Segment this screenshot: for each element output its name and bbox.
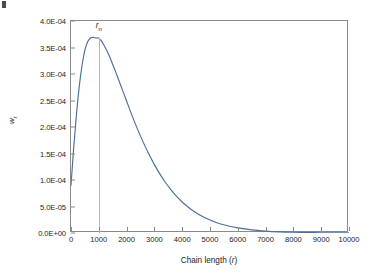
- x-axis-tick-label: 1000: [90, 235, 107, 244]
- x-axis-tick-label: 9000: [313, 235, 330, 244]
- plot-area: rn 0.0E+005.0E-051.0E-041.5E-042.0E-042.…: [70, 20, 348, 232]
- y-axis-tick-label: 0.0E+00: [38, 229, 66, 238]
- x-axis-tick-mark: [182, 227, 183, 231]
- y-axis-tick-mark: [71, 47, 75, 48]
- x-axis-tick-label: 2000: [118, 235, 135, 244]
- y-axis-tick-label: 3.5E-04: [40, 43, 66, 52]
- y-axis-tick-mark: [71, 127, 75, 128]
- x-axis-tick-mark: [210, 227, 211, 231]
- y-axis-label-var: w: [7, 118, 16, 124]
- y-axis-tick-label: 5.0E-05: [40, 202, 66, 211]
- x-axis-tick-mark: [266, 227, 267, 231]
- x-axis-title-text: Chain length (: [181, 256, 232, 265]
- y-axis-tick-label: 2.0E-04: [40, 123, 66, 132]
- x-axis-tick-mark: [349, 227, 350, 231]
- peak-annotation-label: rn: [96, 20, 102, 32]
- x-axis-tick-mark: [71, 227, 72, 231]
- x-axis-tick-mark: [99, 227, 100, 231]
- y-axis-label-sub: r: [12, 116, 18, 118]
- peak-label-sub: n: [98, 25, 101, 32]
- y-axis-tick-mark: [71, 74, 75, 75]
- x-axis-tick-label: 5000: [202, 235, 219, 244]
- y-axis-tick-label: 4.0E-04: [40, 17, 66, 26]
- y-axis-tick-mark: [71, 206, 75, 207]
- x-axis-tick-label: 8000: [285, 235, 302, 244]
- x-axis-tick-label: 6000: [229, 235, 246, 244]
- x-axis-tick-mark: [293, 227, 294, 231]
- y-axis-tick-mark: [71, 100, 75, 101]
- x-axis-tick-mark: [154, 227, 155, 231]
- x-axis-tick-mark: [127, 227, 128, 231]
- x-axis-tick-label: 3000: [146, 235, 163, 244]
- x-axis-tick-label: 10000: [338, 235, 359, 244]
- x-axis-tick-label: 7000: [257, 235, 274, 244]
- x-axis-tick-mark: [321, 227, 322, 231]
- x-axis-tick-mark: [238, 227, 239, 231]
- y-axis-tick-mark: [71, 153, 75, 154]
- y-axis-tick-mark: [71, 180, 75, 181]
- y-axis-tick-label: 2.5E-04: [40, 96, 66, 105]
- x-axis-tick-label: 4000: [174, 235, 191, 244]
- x-axis-title: Chain length (r): [70, 256, 348, 265]
- x-axis-title-tail: ): [234, 256, 237, 265]
- y-axis-label: wr: [7, 116, 18, 124]
- y-axis-tick-mark: [71, 21, 75, 22]
- peak-marker-line: [99, 38, 100, 233]
- y-axis-tick-mark: [71, 233, 75, 234]
- y-axis-tick-label: 1.0E-04: [40, 176, 66, 185]
- scan-artifact: [2, 1, 6, 8]
- y-axis-tick-label: 1.5E-04: [40, 149, 66, 158]
- distribution-curve: [71, 21, 349, 233]
- y-axis-tick-label: 3.0E-04: [40, 70, 66, 79]
- chart-figure: wr rn 0.0E+005.0E-051.0E-041.5E-042.0E-0…: [0, 0, 384, 277]
- x-axis-tick-label: 0: [69, 235, 73, 244]
